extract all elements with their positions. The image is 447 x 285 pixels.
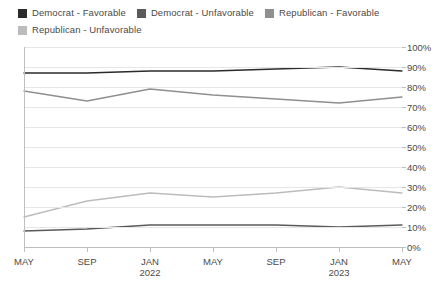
y-gridline xyxy=(24,107,402,108)
y-tick-mark xyxy=(402,187,406,188)
legend-swatch-icon xyxy=(137,9,146,18)
x-axis-tick-month: MAY xyxy=(14,256,34,267)
legend-item-dem_fav[interactable]: Democrat - Favorable xyxy=(18,6,126,20)
y-axis-tick-label: 10% xyxy=(407,222,426,233)
y-tick-mark xyxy=(402,107,406,108)
legend-item-dem_unfav[interactable]: Democrat - Unfavorable xyxy=(137,6,254,20)
plot-area xyxy=(24,47,402,247)
y-tick-mark xyxy=(402,167,406,168)
x-axis-tick-label: SEP xyxy=(266,256,285,267)
y-axis-tick-label: 20% xyxy=(407,202,426,213)
y-axis-tick-label: 90% xyxy=(407,62,426,73)
x-tick-mark xyxy=(150,247,151,252)
x-tick-mark xyxy=(339,247,340,252)
y-axis-tick-label: 70% xyxy=(407,102,426,113)
x-axis-tick-year: 2023 xyxy=(328,267,349,278)
x-tick-mark xyxy=(402,247,403,252)
x-axis-tick-month: SEP xyxy=(77,256,96,267)
y-gridline xyxy=(24,127,402,128)
y-axis-tick-label: 40% xyxy=(407,162,426,173)
y-gridline xyxy=(24,47,402,48)
x-axis-tick-month: MAY xyxy=(203,256,223,267)
legend-swatch-icon xyxy=(265,9,274,18)
y-tick-mark xyxy=(402,227,406,228)
y-tick-mark xyxy=(402,207,406,208)
x-axis-tick-label: MAY xyxy=(203,256,223,267)
y-gridline xyxy=(24,187,402,188)
line-chart: Democrat - FavorableDemocrat - Unfavorab… xyxy=(0,0,447,285)
y-gridline xyxy=(24,227,402,228)
legend-item-rep_fav[interactable]: Republican - Favorable xyxy=(265,6,379,20)
x-tick-mark xyxy=(276,247,277,252)
series-line xyxy=(24,187,402,217)
y-axis-tick-label: 80% xyxy=(407,82,426,93)
series-line xyxy=(24,89,402,103)
x-tick-mark xyxy=(213,247,214,252)
y-axis-line xyxy=(24,47,25,247)
y-axis-tick-label: 0% xyxy=(407,242,421,253)
x-axis-tick-label: MAY xyxy=(14,256,34,267)
x-axis-tick-month: SEP xyxy=(266,256,285,267)
y-gridline xyxy=(24,207,402,208)
x-axis-tick-month: MAY xyxy=(392,256,412,267)
x-axis-tick-label: JAN2023 xyxy=(328,256,349,278)
legend-item-label: Democrat - Unfavorable xyxy=(151,6,254,20)
x-axis-tick-label: JAN2022 xyxy=(139,256,160,278)
x-tick-mark xyxy=(87,247,88,252)
x-axis-tick-label: SEP xyxy=(77,256,96,267)
y-gridline xyxy=(24,87,402,88)
y-tick-mark xyxy=(402,147,406,148)
y-gridline xyxy=(24,167,402,168)
x-axis-tick-month: JAN xyxy=(141,256,159,267)
legend-item-label: Republican - Unfavorable xyxy=(32,23,142,37)
y-gridline xyxy=(24,147,402,148)
x-axis-tick-year: 2022 xyxy=(139,267,160,278)
chart-legend: Democrat - FavorableDemocrat - Unfavorab… xyxy=(18,6,438,40)
y-axis-tick-label: 30% xyxy=(407,182,426,193)
legend-item-rep_unfav[interactable]: Republican - Unfavorable xyxy=(18,23,142,37)
legend-swatch-icon xyxy=(18,26,27,35)
y-axis-tick-label: 100% xyxy=(407,42,431,53)
y-gridline xyxy=(24,67,402,68)
legend-swatch-icon xyxy=(18,9,27,18)
y-tick-mark xyxy=(402,67,406,68)
y-axis-tick-label: 60% xyxy=(407,122,426,133)
y-tick-mark xyxy=(402,47,406,48)
y-tick-mark xyxy=(402,87,406,88)
x-tick-mark xyxy=(24,247,25,252)
y-tick-mark xyxy=(402,127,406,128)
legend-item-label: Democrat - Favorable xyxy=(32,6,126,20)
series-line xyxy=(24,225,402,231)
x-axis-tick-label: MAY xyxy=(392,256,412,267)
y-axis-tick-label: 50% xyxy=(407,142,426,153)
x-axis-tick-month: JAN xyxy=(330,256,348,267)
legend-item-label: Republican - Favorable xyxy=(279,6,379,20)
